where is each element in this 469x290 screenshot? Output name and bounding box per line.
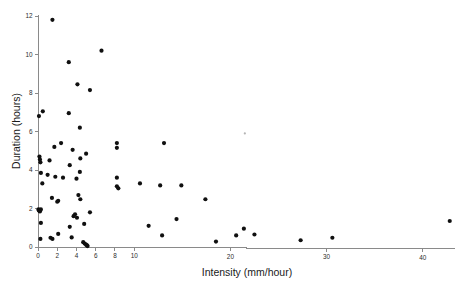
- y-tick-label: 2: [29, 205, 33, 212]
- data-point: [116, 186, 120, 190]
- data-point: [78, 126, 82, 130]
- data-point: [74, 177, 78, 181]
- x-axis-title: Intensity (mm/hour): [202, 266, 292, 278]
- data-point: [39, 171, 43, 175]
- data-point: [244, 132, 246, 134]
- x-tick-label: 30: [323, 253, 331, 260]
- data-point: [59, 141, 63, 145]
- data-point: [68, 225, 72, 229]
- data-point: [50, 196, 54, 200]
- x-axis: 0246810203040: [36, 247, 455, 261]
- y-tick-label: 10: [25, 51, 33, 58]
- y-tick-label: 8: [29, 89, 33, 96]
- data-point: [115, 141, 119, 145]
- data-point: [88, 210, 92, 214]
- data-point: [115, 146, 119, 150]
- data-point: [70, 235, 74, 239]
- data-point: [76, 193, 80, 197]
- chart-canvas: 024681012 0246810203040 Intensity (mm/ho…: [0, 0, 469, 290]
- data-point: [67, 111, 71, 115]
- y-tick-label: 4: [29, 166, 33, 173]
- data-point: [234, 233, 238, 237]
- x-tick-label: 4: [75, 252, 79, 259]
- x-tick-label: 20: [227, 253, 235, 260]
- y-axis: 024681012: [25, 12, 38, 250]
- y-tick-label: 6: [29, 128, 33, 135]
- data-point: [99, 49, 103, 53]
- data-point: [252, 232, 256, 236]
- data-point: [75, 216, 79, 220]
- data-point: [46, 173, 50, 177]
- data-point: [448, 219, 452, 223]
- data-point: [37, 114, 41, 118]
- y-tick-label: 0: [29, 243, 33, 250]
- data-point: [41, 109, 45, 113]
- x-tick-label: 40: [419, 254, 427, 261]
- data-point: [52, 145, 56, 149]
- data-point: [299, 238, 303, 242]
- data-point: [50, 18, 54, 22]
- x-tick-label: 8: [113, 252, 117, 259]
- data-point: [179, 183, 183, 187]
- data-point: [40, 181, 44, 185]
- data-point: [84, 152, 88, 156]
- y-tick-label: 12: [25, 12, 33, 19]
- x-tick-label: 10: [131, 252, 139, 259]
- data-point: [75, 82, 79, 86]
- data-point: [78, 197, 82, 201]
- data-point: [47, 158, 51, 162]
- scatter-plot-figure: 024681012 0246810203040 Intensity (mm/ho…: [0, 0, 469, 290]
- x-axis-line: [38, 247, 455, 249]
- data-point: [61, 176, 65, 180]
- data-point: [85, 244, 89, 248]
- data-point: [242, 227, 246, 231]
- data-point: [78, 156, 82, 160]
- data-point: [214, 240, 218, 244]
- data-point: [50, 237, 54, 241]
- data-point: [138, 181, 142, 185]
- data-point: [162, 141, 166, 145]
- data-point: [174, 217, 178, 221]
- data-point: [71, 148, 75, 152]
- data-point: [78, 170, 82, 174]
- data-point: [330, 236, 334, 240]
- data-point: [39, 207, 43, 211]
- data-point: [56, 232, 60, 236]
- data-point: [115, 176, 119, 180]
- data-points-layer: [36, 18, 451, 248]
- data-point: [158, 183, 162, 187]
- data-point: [67, 60, 71, 64]
- x-tick-label: 6: [94, 252, 98, 259]
- data-point: [88, 88, 92, 92]
- data-point: [53, 175, 57, 179]
- x-tick-label: 0: [36, 252, 40, 259]
- data-point: [82, 222, 86, 226]
- data-point: [68, 163, 72, 167]
- data-point: [147, 224, 151, 228]
- data-point: [203, 197, 207, 201]
- data-point: [160, 233, 164, 237]
- x-tick-label: 2: [55, 252, 59, 259]
- data-point: [38, 237, 42, 241]
- y-axis-ticks: 024681012: [25, 12, 38, 250]
- data-point: [38, 160, 42, 164]
- data-point: [39, 221, 43, 225]
- y-axis-title: Duration (hours): [10, 93, 22, 169]
- data-point: [56, 199, 60, 203]
